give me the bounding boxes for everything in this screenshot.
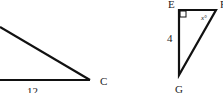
left-triangle: C 12 xyxy=(0,27,107,93)
triangle-efg-outline xyxy=(179,10,216,75)
right-triangle-efg: E F G 4 x° xyxy=(167,0,223,93)
vertex-label-c: C xyxy=(100,75,107,87)
side-length-label: 4 xyxy=(167,32,173,44)
right-angle-marker xyxy=(180,11,186,17)
vertex-label-e: E xyxy=(168,0,175,10)
angle-label-x: x° xyxy=(200,14,207,22)
vertex-label-g: G xyxy=(175,83,183,93)
hypotenuse-line xyxy=(0,27,90,80)
geometry-diagram: C 12 E F G 4 x° xyxy=(0,0,223,93)
base-length-label: 12 xyxy=(27,85,38,93)
vertex-label-f: F xyxy=(220,0,223,10)
